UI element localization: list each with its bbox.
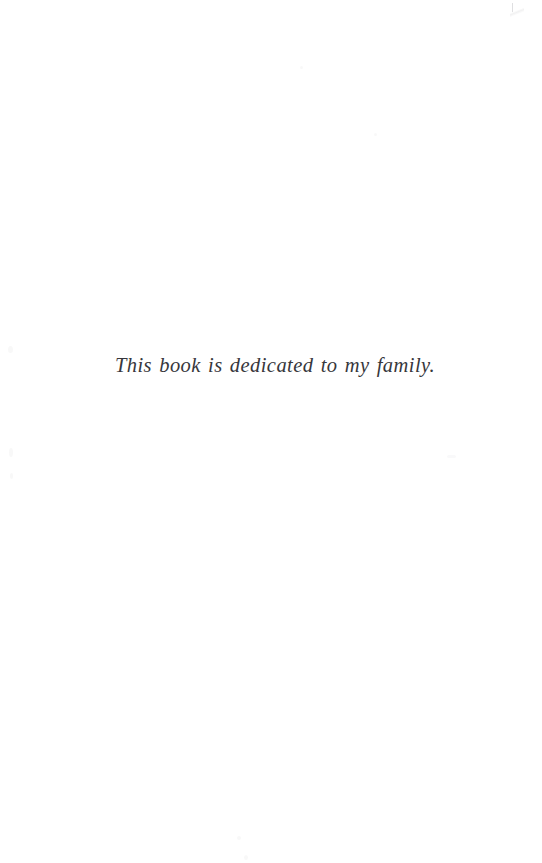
scan-artifact-icon (510, 2, 524, 24)
scan-speckle (237, 836, 241, 840)
scan-speckle (9, 448, 13, 457)
dedication-text: This book is dedicated to my family. (115, 352, 435, 378)
scan-speckle (374, 133, 377, 136)
scan-speckle (300, 66, 303, 69)
scan-artifact-tick-icon (512, 3, 513, 12)
scan-speckle (447, 455, 456, 458)
scan-speckle (10, 473, 13, 479)
dedication-block: This book is dedicated to my family. (0, 352, 542, 378)
book-page: This book is dedicated to my family. (0, 0, 542, 863)
scan-speckle (244, 855, 248, 860)
